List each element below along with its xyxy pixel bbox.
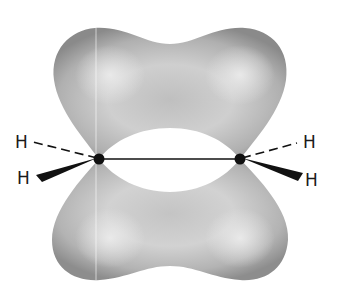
dashed-bond-left	[33, 142, 97, 158]
hydrogen-label: H	[303, 132, 316, 152]
pi-orbital-diagram: H H H H	[0, 0, 337, 304]
carbon-atom-right	[235, 154, 246, 165]
top-lobe	[53, 28, 286, 159]
bottom-lobe	[52, 159, 288, 280]
hydrogen-label: H	[15, 132, 28, 152]
hydrogen-label: H	[17, 168, 30, 188]
hydrogen-label: H	[305, 170, 318, 190]
carbon-atom-left	[94, 154, 105, 165]
